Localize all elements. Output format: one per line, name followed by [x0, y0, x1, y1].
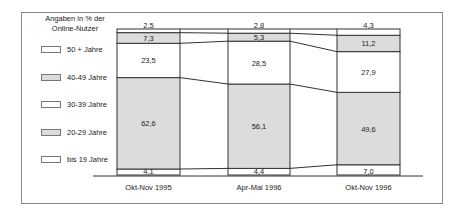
value-label: 7,3 — [143, 34, 153, 43]
connector-line — [290, 84, 337, 92]
connector-line — [290, 165, 337, 169]
value-label: 23,5 — [141, 56, 156, 65]
connector-line — [180, 168, 228, 169]
bar-segment — [117, 29, 180, 33]
value-label: 28,5 — [252, 59, 267, 68]
value-label: 2,5 — [143, 21, 153, 30]
value-label: 62,6 — [141, 119, 156, 128]
connector-line — [180, 41, 228, 43]
value-label: 4,3 — [363, 21, 373, 30]
connector-line — [180, 33, 228, 34]
connector-line — [180, 78, 228, 84]
value-label: 2,8 — [254, 21, 264, 30]
value-label: 27,9 — [361, 68, 376, 77]
value-label: 5,3 — [254, 33, 264, 42]
value-label: 11,2 — [361, 39, 375, 48]
connector-line — [290, 33, 337, 35]
stacked-bar-chart: 4,162,623,57,32,5Okt-Nov 19954,456,128,5… — [0, 0, 462, 218]
category-label: Okt-Nov 1996 — [345, 183, 391, 192]
bar-segment — [337, 29, 400, 35]
category-label: Apr-Mai 1996 — [236, 183, 281, 192]
value-label: 49,6 — [361, 125, 376, 134]
value-label: 7,0 — [363, 167, 373, 176]
value-label: 56,1 — [252, 122, 267, 131]
connector-line — [290, 41, 337, 51]
bar-segment — [228, 29, 290, 33]
category-label: Okt-Nov 1995 — [125, 183, 171, 192]
